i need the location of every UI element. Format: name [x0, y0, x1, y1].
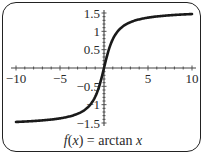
y-tick-label: 0.5 — [84, 42, 100, 57]
y-tick-label: −1.5 — [76, 116, 100, 131]
caption-eq: = arctan — [83, 133, 136, 148]
function-caption: f(x) = arctan x — [64, 133, 143, 149]
caption-x2: x — [135, 133, 143, 148]
x-tick-label: 10 — [186, 71, 199, 86]
x-tick-label: −10 — [6, 71, 26, 86]
x-tick-label: 5 — [145, 71, 152, 86]
y-tick-label: 1 — [94, 24, 101, 39]
arctan-chart: −10−55101.510.5−0.5−1−1.5 f(x) = arctan … — [0, 0, 205, 159]
x-tick-label: −5 — [53, 71, 67, 86]
y-tick-label: 1.5 — [84, 6, 100, 21]
